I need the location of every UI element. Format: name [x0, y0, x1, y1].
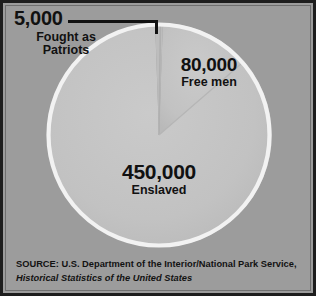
callout-fought-as-patriots: 5,000 Fought as Patriots: [12, 8, 120, 58]
pie-label-enslaved-caption: Enslaved: [79, 184, 239, 197]
pie-label-enslaved-value: 450,000: [79, 161, 239, 183]
pie-label-free-men: 80,000 Free men: [153, 55, 265, 89]
callout-fought-value: 5,000: [14, 8, 120, 30]
pie-label-free-men-caption: Free men: [153, 76, 265, 89]
source-citation-line-1: SOURCE: U.S. Department of the Interior/…: [16, 258, 308, 271]
source-citation: SOURCE: U.S. Department of the Interior/…: [16, 258, 308, 285]
pie-chart-figure: 5,000 Fought as Patriots 80,000 Free men…: [0, 0, 316, 296]
callout-leader-line-vertical: [155, 20, 158, 34]
pie-label-enslaved: 450,000 Enslaved: [79, 161, 239, 197]
source-citation-line-2: Historical Statistics of the United Stat…: [16, 272, 308, 285]
pie-label-free-men-value: 80,000: [153, 55, 265, 75]
callout-fought-caption: Fought as Patriots: [12, 31, 120, 58]
callout-leader-line-horizontal: [68, 20, 158, 23]
